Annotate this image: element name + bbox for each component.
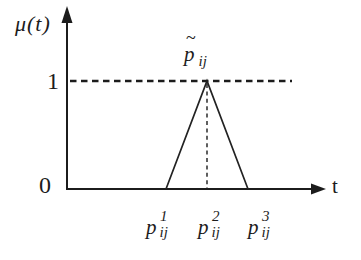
tilde-accent: ~ [186,28,196,49]
y-tick-1: 1 [47,68,59,95]
x-tick-2-superscript: 2 [212,208,220,224]
x-tick-3-subscript: ij [262,224,270,240]
x-tick-3-superscript: 3 [262,208,270,224]
x-tick-1-scripts: 1 ij [160,208,168,240]
origin-zero-label: 0 [39,172,51,199]
x-tick-1-subscript: ij [160,224,168,240]
x-tick-1-superscript: 1 [160,208,168,224]
x-tick-3-scripts: 3 ij [262,208,270,240]
peak-label-p-tilde-ij: ~pij [184,42,207,67]
x-tick-label-p1-ij: p 1 ij [146,208,168,240]
x-tick-3-base: p [248,215,259,240]
x-tick-label-p3-ij: p 3 ij [248,208,270,240]
x-axis-arrowhead [311,184,326,195]
y-axis-label: μ(t) [15,11,51,37]
x-tick-2-base: p [198,215,209,240]
x-tick-label-p2-ij: p 2 ij [198,208,220,240]
figure-canvas [0,0,361,260]
fuzzy-membership-figure: μ(t) 1 0 t ~pij p 1 ij p 2 ij p 3 ij [0,0,361,260]
x-axis-label: t [332,174,338,199]
y-axis-arrowhead [62,6,73,23]
x-tick-2-subscript: ij [212,224,220,240]
peak-label-subscript: ij [199,53,207,69]
x-tick-2-scripts: 2 ij [212,208,220,240]
x-tick-1-base: p [146,215,157,240]
p-tilde: ~p [184,42,195,67]
